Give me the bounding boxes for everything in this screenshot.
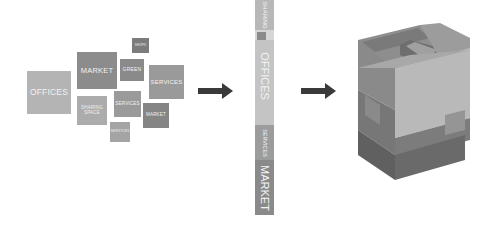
box-offices: OFFICES <box>27 71 71 114</box>
box-label: SHOPS <box>135 44 147 47</box>
strip-label-services: SERVICES <box>255 125 274 160</box>
box-market: MARKET <box>77 52 117 89</box>
box-services-large: SERVICES <box>149 65 184 99</box>
box-green: GREEN <box>120 59 144 81</box>
box-services-mid: SERVICES <box>114 91 141 117</box>
box-label: GREEN <box>123 67 142 72</box>
strip-label-market: MARKET <box>255 160 274 215</box>
box-label: OFFICES <box>30 88 68 97</box>
arrow-right-icon <box>198 83 234 99</box>
box-market-small: MARKET <box>143 103 169 128</box>
box-label: SERVICES <box>115 102 139 107</box>
strip-label-offices: OFFICES <box>255 48 274 104</box>
box-label: SERVICES <box>151 79 183 85</box>
arrow-right-icon <box>301 83 337 99</box>
box-label: SERVICES <box>110 130 129 134</box>
strip-label-sharing: SHARING <box>255 0 274 30</box>
box-shops: SHOPS <box>132 38 149 53</box>
box-label: MARKET <box>146 113 166 118</box>
box-sharing-space: SHARING SPACE <box>77 96 107 125</box>
box-label: SHARING SPACE <box>77 106 107 115</box>
building-massing-model <box>340 20 497 180</box>
box-label: MARKET <box>81 67 113 75</box>
box-services-small: SERVICES <box>110 122 130 142</box>
strip-segment-dark <box>257 32 266 40</box>
